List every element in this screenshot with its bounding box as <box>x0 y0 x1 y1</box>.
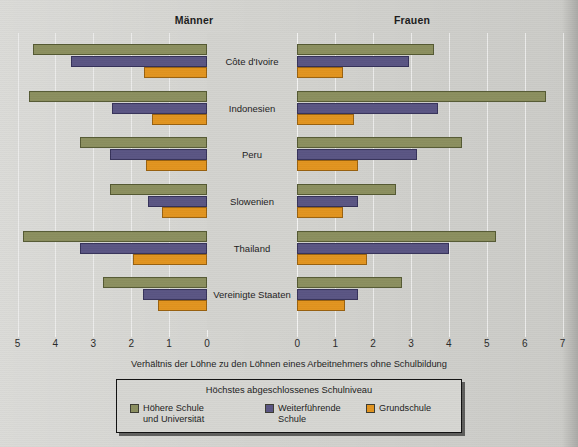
tick-label-men-0: 0 <box>197 338 217 349</box>
legend: Höchstes abgeschlossenes Schulniveau Höh… <box>116 379 462 433</box>
legend-item-higher: Höhere Schule und Universität <box>130 403 204 425</box>
category-label: Côte d'Ivoire <box>207 56 297 67</box>
category-label: Peru <box>207 149 297 160</box>
tick-label-women-3: 3 <box>401 338 421 349</box>
bar-maenner-secondary <box>143 289 207 300</box>
bar-frauen-secondary <box>297 289 358 300</box>
x-axis: 54321001234567 <box>0 330 578 358</box>
bar-maenner-higher <box>103 277 207 288</box>
bar-maenner-secondary <box>71 56 207 67</box>
gridline-women-6 <box>525 33 526 330</box>
legend-swatch-higher-icon <box>130 404 139 413</box>
panel-title-women: Frauen <box>322 14 502 26</box>
legend-label-higher: Höhere Schule und Universität <box>143 403 204 425</box>
bar-maenner-higher <box>23 231 207 242</box>
bar-maenner-secondary <box>112 103 207 114</box>
tick-label-women-2: 2 <box>363 338 383 349</box>
bar-frauen-higher <box>297 277 401 288</box>
legend-item-secondary: Weiterführende Schule <box>265 403 341 425</box>
tick-women-7 <box>563 330 564 337</box>
category-label: Vereinigte Staaten <box>207 289 297 300</box>
bar-frauen-higher <box>297 184 396 195</box>
tick-label-men-1: 1 <box>159 338 179 349</box>
bar-frauen-secondary <box>297 103 437 114</box>
tick-label-women-4: 4 <box>439 338 459 349</box>
axis-caption: Verhältnis der Löhne zu den Löhnen eines… <box>0 359 578 369</box>
bar-maenner-higher <box>33 44 207 55</box>
bar-frauen-primary <box>297 160 358 171</box>
panel-title-men: Männer <box>104 14 284 26</box>
center-label-band <box>207 33 297 330</box>
bar-frauen-primary <box>297 300 344 311</box>
tick-label-women-5: 5 <box>477 338 497 349</box>
tick-label-women-1: 1 <box>325 338 345 349</box>
tick-men-0 <box>207 330 208 337</box>
tick-label-women-0: 0 <box>287 338 307 349</box>
figure-page: Männer Frauen Côte d'IvoireIndonesienPer… <box>0 0 578 447</box>
bar-frauen-higher <box>297 44 433 55</box>
gridline-men-5 <box>18 33 19 330</box>
bar-maenner-secondary <box>80 243 207 254</box>
bar-maenner-secondary <box>110 149 207 160</box>
tick-women-6 <box>525 330 526 337</box>
tick-label-men-3: 3 <box>83 338 103 349</box>
tick-women-3 <box>411 330 412 337</box>
gridline-women-5 <box>487 33 488 330</box>
legend-swatch-secondary-icon <box>265 404 274 413</box>
bar-frauen-higher <box>297 231 496 242</box>
category-label: Slowenien <box>207 196 297 207</box>
bar-maenner-primary <box>144 67 207 78</box>
tick-women-1 <box>335 330 336 337</box>
bar-maenner-higher <box>80 137 207 148</box>
plot-area: Côte d'IvoireIndonesienPeruSlowenienThai… <box>0 33 578 330</box>
bar-frauen-primary <box>297 67 342 78</box>
tick-label-men-5: 5 <box>8 338 28 349</box>
bar-frauen-primary <box>297 254 367 265</box>
bar-maenner-primary <box>162 207 207 218</box>
legend-item-primary: Grundschule <box>366 403 431 414</box>
bar-frauen-secondary <box>297 149 416 160</box>
gridline-men-4 <box>55 33 56 330</box>
tick-women-5 <box>487 330 488 337</box>
tick-men-3 <box>93 330 94 337</box>
tick-women-4 <box>449 330 450 337</box>
bar-maenner-higher <box>110 184 207 195</box>
tick-men-5 <box>18 330 19 337</box>
tick-label-men-4: 4 <box>45 338 65 349</box>
bar-frauen-secondary <box>297 196 358 207</box>
tick-label-women-7: 7 <box>553 338 573 349</box>
bar-maenner-primary <box>133 254 207 265</box>
legend-label-primary: Grundschule <box>379 403 431 414</box>
bar-frauen-primary <box>297 114 354 125</box>
category-label: Indonesien <box>207 103 297 114</box>
category-label: Thailand <box>207 243 297 254</box>
bar-frauen-higher <box>297 137 462 148</box>
tick-men-2 <box>131 330 132 337</box>
bar-maenner-secondary <box>148 196 207 207</box>
bar-frauen-primary <box>297 207 342 218</box>
bar-maenner-primary <box>146 160 207 171</box>
tick-women-0 <box>297 330 298 337</box>
legend-label-secondary: Weiterführende Schule <box>278 403 341 425</box>
tick-women-2 <box>373 330 374 337</box>
gridline-women-3 <box>411 33 412 330</box>
tick-label-men-2: 2 <box>121 338 141 349</box>
bar-frauen-higher <box>297 91 545 102</box>
legend-swatch-primary-icon <box>366 404 375 413</box>
gridline-men-3 <box>93 33 94 330</box>
gridline-women-4 <box>449 33 450 330</box>
bar-maenner-higher <box>29 91 207 102</box>
gridline-women-7 <box>563 33 564 330</box>
tick-label-women-6: 6 <box>515 338 535 349</box>
legend-title: Höchstes abgeschlossenes Schulniveau <box>117 385 461 395</box>
bar-frauen-secondary <box>297 56 409 67</box>
bar-maenner-primary <box>158 300 207 311</box>
bar-maenner-primary <box>152 114 207 125</box>
bar-frauen-secondary <box>297 243 449 254</box>
tick-men-4 <box>55 330 56 337</box>
tick-men-1 <box>169 330 170 337</box>
